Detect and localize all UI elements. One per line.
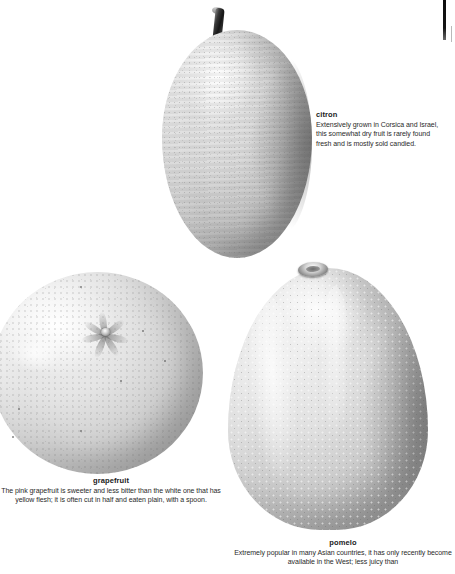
- caption-pomelo: pomelo Extremely popular in many Asian c…: [231, 538, 455, 567]
- grapefruit-calyx-scar: [78, 312, 132, 352]
- caption-grapefruit-title: grapefruit: [0, 476, 222, 486]
- grapefruit-highlight: [8, 334, 62, 372]
- grapefruit-blemish: [164, 360, 166, 362]
- grapefruit-blemish: [80, 286, 82, 288]
- caption-citron: citron Extensively grown in Corsica and …: [316, 110, 442, 148]
- grapefruit-blemish: [120, 380, 122, 382]
- pomelo-calyx-center: [306, 266, 320, 273]
- pomelo-highlight-center: [320, 286, 350, 436]
- grapefruit-blemish: [12, 436, 14, 438]
- caption-pomelo-text: Extremely popular in many Asian countrie…: [231, 548, 455, 567]
- pomelo-surface-clip: [228, 268, 428, 530]
- grapefruit-blemish: [80, 430, 82, 432]
- page-edge-artifact: [443, 0, 446, 40]
- caption-citron-title: citron: [316, 110, 442, 120]
- caption-grapefruit-text: The pink grapefruit is sweeter and less …: [0, 486, 222, 505]
- citron-shading: [249, 53, 312, 235]
- caption-pomelo-title: pomelo: [231, 538, 455, 548]
- grapefruit-calyx-center: [101, 328, 110, 336]
- caption-grapefruit: grapefruit The pink grapefruit is sweete…: [0, 476, 222, 505]
- citron-body: [162, 30, 312, 258]
- figure-grapefruit: [0, 272, 207, 477]
- grapefruit-blemish: [18, 408, 20, 410]
- caption-citron-text: Extensively grown in Corsica and Israel,…: [316, 120, 442, 148]
- pomelo-shading: [362, 308, 428, 518]
- grapefruit-body: [0, 272, 203, 474]
- page-edge-artifact-thin: [451, 26, 452, 42]
- figure-citron: [148, 8, 323, 276]
- page-canvas: citron Extensively grown in Corsica and …: [0, 0, 455, 574]
- grapefruit-surface-pores: [0, 272, 203, 474]
- grapefruit-blemish: [142, 330, 144, 332]
- figure-pomelo: [228, 262, 430, 534]
